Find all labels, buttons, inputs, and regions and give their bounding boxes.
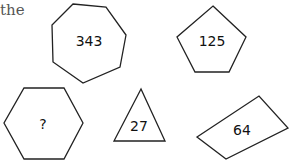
triangle-label: 27 — [130, 118, 148, 134]
heptagon-shape: 343 — [52, 4, 126, 83]
triangle-shape: 27 — [114, 89, 165, 141]
parallelogram-shape: 64 — [197, 96, 288, 159]
pentagon-label: 125 — [199, 33, 226, 49]
shapes-diagram: 343 125 ? 27 64 — [0, 0, 293, 161]
parallelogram-label: 64 — [233, 122, 251, 138]
hexagon-shape: ? — [4, 88, 83, 159]
pentagon-shape: 125 — [177, 6, 246, 72]
heptagon-label: 343 — [76, 33, 103, 49]
hexagon-label: ? — [39, 116, 46, 132]
